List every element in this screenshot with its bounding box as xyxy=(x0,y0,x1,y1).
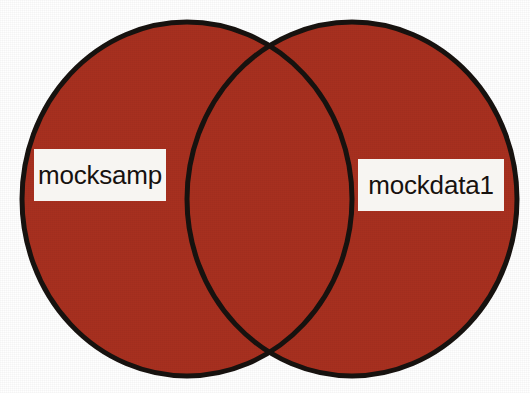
venn-label-right-text: mockdata1 xyxy=(368,172,493,198)
venn-diagram-figure: mocksamp mockdata1 xyxy=(0,0,530,393)
venn-label-left-text: mocksamp xyxy=(38,162,162,188)
venn-label-left: mocksamp xyxy=(34,149,166,201)
venn-label-right: mockdata1 xyxy=(358,159,504,211)
